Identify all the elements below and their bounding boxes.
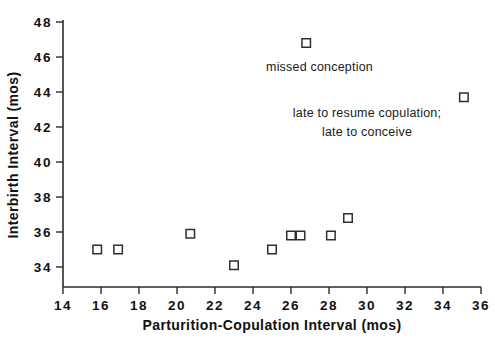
x-tick-label: 24 [244,298,262,313]
annotations-layer: missed conceptionlate to resume copulati… [266,60,441,139]
data-point-marker [460,93,469,102]
y-tick-label: 40 [34,155,52,170]
x-tick-label: 14 [54,298,72,313]
x-tick-label: 36 [472,298,490,313]
y-axis-title: Interbirth Interval (mos) [5,71,21,238]
y-tick-label: 46 [34,50,52,65]
x-axis-ticks: 141618202224262830323436 [54,287,490,313]
chart-annotation: missed conception [266,60,373,74]
scatter-plot-figure: 3436384042444648 14161820222426283032343… [0,0,495,349]
data-point-marker [296,231,305,240]
y-tick-label: 38 [34,190,52,205]
x-tick-label: 26 [282,298,300,313]
data-point-marker [327,231,336,240]
x-axis-title: Parturition-Copulation Interval (mos) [142,317,401,333]
data-point-marker [287,231,296,240]
x-tick-label: 32 [396,298,414,313]
data-point-marker [186,230,195,239]
x-tick-label: 28 [320,298,338,313]
data-point-marker [114,245,123,254]
x-tick-label: 22 [206,298,224,313]
data-point-marker [344,214,353,223]
y-tick-label: 44 [34,85,52,100]
x-tick-label: 18 [130,298,148,313]
data-point-marker [93,245,102,254]
chart-annotation: late to conceive [322,125,412,139]
data-point-marker [268,245,277,254]
data-point-marker [230,261,239,270]
x-tick-label: 30 [358,298,376,313]
chart-canvas: 3436384042444648 14161820222426283032343… [0,0,495,349]
data-point-marker [302,39,311,48]
x-tick-label: 34 [434,298,452,313]
y-tick-label: 48 [34,15,52,30]
y-tick-label: 36 [34,225,52,240]
y-tick-label: 42 [34,120,52,135]
x-tick-label: 20 [168,298,186,313]
y-axis-ticks: 3436384042444648 [34,15,63,275]
y-tick-label: 34 [34,260,52,275]
x-tick-label: 16 [92,298,110,313]
chart-annotation: late to resume copulation; [293,106,441,120]
